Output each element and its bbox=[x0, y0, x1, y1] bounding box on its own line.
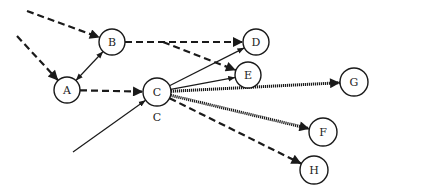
node-e: E bbox=[235, 62, 261, 88]
edge-c-to-d bbox=[169, 48, 244, 86]
node-a: A bbox=[54, 77, 80, 103]
annotation-label: C bbox=[153, 111, 161, 124]
edge-a-to-b bbox=[76, 51, 103, 80]
graph-diagram: ABCDEGFH C bbox=[0, 0, 423, 190]
node-d: D bbox=[243, 29, 269, 55]
edge-a-to-c bbox=[80, 90, 143, 91]
node-label: A bbox=[62, 84, 72, 97]
node-label: F bbox=[319, 126, 327, 139]
node-label: G bbox=[350, 76, 359, 89]
annotations-layer: C bbox=[153, 111, 161, 124]
edge-c-to-f bbox=[171, 95, 310, 128]
node-c: C bbox=[143, 78, 171, 106]
edge-c-to-h bbox=[170, 98, 302, 164]
node-label: C bbox=[153, 86, 161, 99]
nodes-layer: ABCDEGFH bbox=[54, 29, 368, 184]
edge-external-to-c bbox=[73, 100, 146, 152]
node-label: B bbox=[108, 36, 116, 49]
node-label: D bbox=[252, 36, 261, 49]
edge-external-to-b bbox=[27, 11, 100, 38]
node-h: H bbox=[300, 156, 328, 184]
node-g: G bbox=[340, 68, 368, 96]
node-b: B bbox=[99, 29, 125, 55]
node-f: F bbox=[309, 118, 337, 146]
edge-bd-to-e bbox=[163, 42, 236, 70]
edge-external-to-a bbox=[17, 36, 58, 80]
node-label: H bbox=[309, 164, 319, 177]
node-label: E bbox=[244, 69, 252, 82]
